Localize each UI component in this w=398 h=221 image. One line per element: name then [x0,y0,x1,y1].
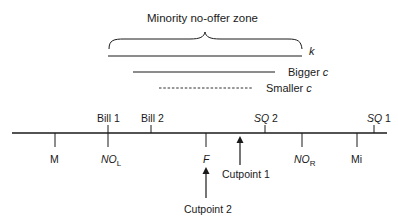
curly-brace [109,32,302,49]
sq-2-label-var: SQ [254,112,269,124]
mi-label: Mi [351,153,362,165]
sq-2-label-num: 2 [269,112,278,124]
smaller-c-label: Smaller c [266,82,312,94]
no-l-label-sub: L [117,159,121,168]
k-label: k [309,45,315,57]
bill-1-label: Bill 1 [97,112,120,124]
sq-2-label: SQ 2 [254,112,278,124]
bill-2-label: Bill 2 [141,112,164,124]
bigger-c-label: Bigger c [288,66,328,78]
f-label: F [203,153,209,165]
diagram-canvas [0,0,398,221]
sq-1-label-num: 1 [382,112,391,124]
cutpoint-2-arrowhead-icon [203,167,210,174]
cutpoint-1-arrowhead-icon [237,136,244,143]
no-r-label-sub: R [310,159,316,168]
diagram-title: Minority no-offer zone [147,12,258,24]
bigger-c-label-text: Bigger [288,66,323,78]
bigger-c-label-var: c [323,66,329,78]
no-l-label-var: NO [101,153,117,165]
no-r-label: NOR [294,153,316,170]
cutpoint-1-label: Cutpoint 1 [222,168,270,180]
sq-1-label-var: SQ [367,112,382,124]
smaller-c-label-text: Smaller [266,82,306,94]
no-r-label-var: NO [294,153,310,165]
no-l-label: NOL [101,153,121,170]
cutpoint-2-label: Cutpoint 2 [184,203,232,215]
sq-1-label: SQ 1 [367,112,391,124]
m-label: M [50,153,59,165]
smaller-c-label-var: c [306,82,312,94]
